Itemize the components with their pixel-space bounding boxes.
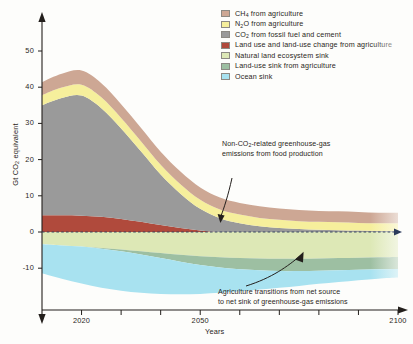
annotation-transition: Agriculture transitions from net sourcet…: [218, 288, 388, 307]
y-tick-label: 0: [10, 227, 34, 236]
y-axis-arrow-down: [38, 314, 45, 324]
y-axis-arrow-up: [38, 12, 45, 22]
y-tick-label: -10: [10, 263, 34, 272]
x-axis-label: Years: [205, 327, 224, 336]
y-tick-label: 10: [10, 191, 34, 200]
x-tick-label: 2100: [378, 316, 413, 325]
y-tick-label: 50: [10, 46, 34, 55]
y-tick-label: 30: [10, 118, 34, 127]
y-tick-label: 40: [10, 82, 34, 91]
y-tick-label: 20: [10, 155, 34, 164]
annotation-non-co2: Non-CO2-related greenhouse-gasemissions …: [222, 140, 372, 159]
x-tick-label: 2050: [180, 316, 220, 325]
x-tick-label: 2020: [62, 316, 102, 325]
chart-figure: CH4 from agricultureN2O from agriculture…: [0, 0, 413, 344]
